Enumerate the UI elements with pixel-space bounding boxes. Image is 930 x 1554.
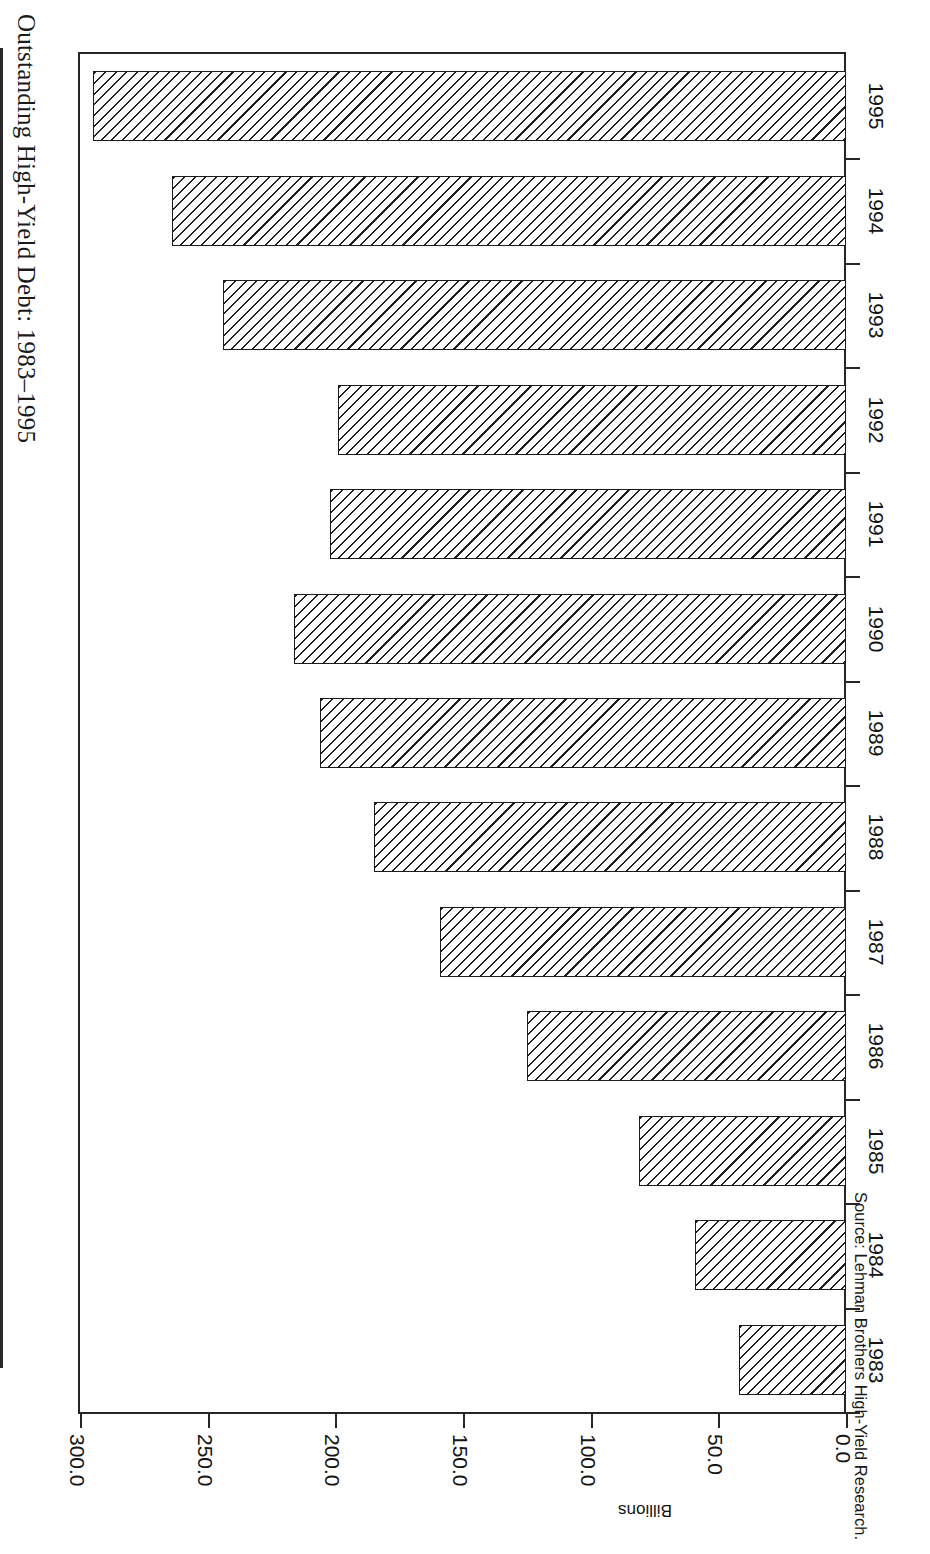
value-tick-label-250.0: 250.0 <box>195 1434 217 1530</box>
value-tick-label-50.0: 50.0 <box>705 1434 727 1530</box>
bar-1990 <box>294 594 846 664</box>
value-tick-100.0 <box>591 1413 593 1428</box>
bar-1985 <box>639 1116 846 1186</box>
bar-1983 <box>739 1325 846 1395</box>
value-tick-label-0.0: 0.0 <box>833 1434 855 1530</box>
category-tick-1990 <box>846 681 860 683</box>
category-tick-1985 <box>846 1203 860 1205</box>
value-tick-150.0 <box>463 1413 465 1428</box>
bar-1994 <box>172 176 846 246</box>
category-label-1995: 1995 <box>862 51 888 161</box>
bar-1989 <box>320 698 846 768</box>
category-label-1987: 1987 <box>862 887 888 997</box>
bar-fill-1991 <box>330 489 846 559</box>
category-tick-1995 <box>846 158 860 160</box>
bar-1984 <box>695 1220 846 1290</box>
bar-fill-1993 <box>223 280 846 350</box>
bar-fill-1988 <box>374 802 846 872</box>
value-tick-label-200.0: 200.0 <box>322 1434 344 1530</box>
bar-fill-1987 <box>440 907 846 977</box>
category-label-1983: 1983 <box>862 1305 888 1415</box>
bar-1995 <box>93 71 846 141</box>
bar-1987 <box>440 907 846 977</box>
bar-fill-1984 <box>695 1220 846 1290</box>
bar-1993 <box>223 280 846 350</box>
bar-fill-1986 <box>527 1011 846 1081</box>
bar-fill-1990 <box>294 594 846 664</box>
category-label-1993: 1993 <box>862 260 888 370</box>
category-tick-1987 <box>846 994 860 996</box>
category-label-1990: 1990 <box>862 574 888 684</box>
value-tick-50.0 <box>718 1413 720 1428</box>
category-label-1985: 1985 <box>862 1096 888 1206</box>
bar-fill-1994 <box>172 176 846 246</box>
value-tick-250.0 <box>208 1413 210 1428</box>
value-tick-label-150.0: 150.0 <box>450 1434 472 1530</box>
value-tick-200.0 <box>335 1413 337 1428</box>
category-label-1986: 1986 <box>862 991 888 1101</box>
category-tick-1991 <box>846 576 860 578</box>
bar-1992 <box>338 385 846 455</box>
category-tick-1992 <box>846 472 860 474</box>
category-tick-1994 <box>846 263 860 265</box>
value-tick-label-100.0: 100.0 <box>578 1434 600 1530</box>
value-tick-label-300.0: 300.0 <box>67 1434 89 1530</box>
category-label-1989: 1989 <box>862 678 888 788</box>
bar-fill-1989 <box>320 698 846 768</box>
category-label-1988: 1988 <box>862 782 888 892</box>
category-label-1984: 1984 <box>862 1200 888 1310</box>
bar-fill-1985 <box>639 1116 846 1186</box>
value-tick-300.0 <box>80 1413 82 1428</box>
category-tick-1989 <box>846 785 860 787</box>
bar-1988 <box>374 802 846 872</box>
category-tick-1986 <box>846 1099 860 1101</box>
bar-fill-1992 <box>338 385 846 455</box>
bar-1986 <box>527 1011 846 1081</box>
category-tick-1983 <box>846 1412 860 1414</box>
bar-1991 <box>330 489 846 559</box>
category-label-1992: 1992 <box>862 365 888 475</box>
category-tick-1993 <box>846 367 860 369</box>
category-label-1994: 1994 <box>862 156 888 266</box>
bar-fill-1995 <box>93 71 846 141</box>
category-tick-1984 <box>846 1308 860 1310</box>
category-tick-1988 <box>846 890 860 892</box>
category-label-1991: 1991 <box>862 469 888 579</box>
value-tick-0.0 <box>846 1413 848 1428</box>
bars-layer <box>0 0 930 1554</box>
bar-fill-1983 <box>739 1325 846 1395</box>
